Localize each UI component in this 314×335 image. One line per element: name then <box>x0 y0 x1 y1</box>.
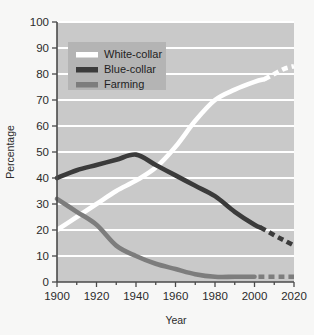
y-axis-title: Percentage <box>4 125 16 179</box>
legend-label-farming: Farming <box>104 78 144 90</box>
chart-figure: 0102030405060708090100 19001920194019601… <box>0 0 314 335</box>
x-tick-label-2000: 2000 <box>242 290 268 302</box>
y-tick-label-100: 100 <box>30 16 49 28</box>
x-tick-label-1900: 1900 <box>44 290 70 302</box>
x-tick-label-1980: 1980 <box>202 290 228 302</box>
x-axis-title: Year <box>165 314 187 326</box>
y-tick-label-0: 0 <box>43 276 49 288</box>
legend-swatch-white-collar <box>76 52 98 58</box>
y-tick-label-50: 50 <box>36 146 49 158</box>
y-tick-label-40: 40 <box>36 172 49 184</box>
legend-swatch-farming <box>76 82 98 88</box>
chart-legend: White-collarBlue-collarFarming <box>68 42 166 90</box>
y-tick-label-10: 10 <box>36 250 49 262</box>
employment-trends-line-chart: 0102030405060708090100 19001920194019601… <box>0 0 314 335</box>
x-tick-label-1960: 1960 <box>163 290 189 302</box>
y-tick-label-30: 30 <box>36 198 49 210</box>
legend-swatch-blue-collar <box>76 67 98 73</box>
y-tick-label-20: 20 <box>36 224 49 236</box>
y-tick-label-90: 90 <box>36 42 49 54</box>
y-tick-label-70: 70 <box>36 94 49 106</box>
legend-label-blue-collar: Blue-collar <box>104 63 156 75</box>
x-tick-label-1940: 1940 <box>123 290 149 302</box>
y-tick-label-80: 80 <box>36 68 49 80</box>
x-tick-label-2020: 2020 <box>281 290 307 302</box>
y-tick-label-60: 60 <box>36 120 49 132</box>
legend-label-white-collar: White-collar <box>104 48 162 60</box>
x-tick-label-1920: 1920 <box>84 290 110 302</box>
